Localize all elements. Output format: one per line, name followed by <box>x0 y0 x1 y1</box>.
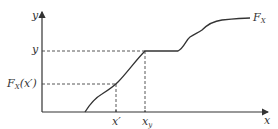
cdf-diagram: y x y FX(x′) FX x′ xy <box>0 0 278 129</box>
xy-label: xy <box>142 116 152 129</box>
xy-label-sub: y <box>148 121 152 129</box>
cdf-curve <box>85 18 250 112</box>
y-axis-label: y <box>32 10 38 21</box>
xprime-label: x′ <box>112 116 121 127</box>
fx-prefix: F <box>7 77 15 90</box>
curve-label-sub: X <box>261 17 266 25</box>
fx-arg: (x′) <box>20 77 37 90</box>
curve-label-main: F <box>253 11 261 24</box>
y-level-label: y <box>32 44 38 55</box>
curve-label: FX <box>253 12 266 25</box>
x-axis-label: x <box>264 115 270 126</box>
diagram-svg <box>0 0 278 129</box>
fx-xprime-label: FX(x′) <box>7 78 37 91</box>
